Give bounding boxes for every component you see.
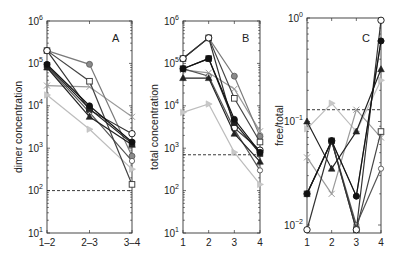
- y-tick-label: 102: [164, 183, 179, 196]
- triangle-filled-marker: [378, 66, 385, 72]
- y-tick-label: 105: [164, 56, 179, 69]
- circle-open-marker: [304, 227, 310, 233]
- y-axis-label: free/total: [273, 105, 285, 146]
- x-tick-label: 1: [180, 237, 186, 248]
- circle-open-marker: [378, 17, 384, 23]
- triangle-light-marker: [130, 166, 136, 172]
- circle-filled-marker: [206, 56, 212, 62]
- series-line: [183, 38, 260, 150]
- series-line: [183, 104, 260, 184]
- panel-c: 10−210−11001234free/totalC: [273, 11, 385, 249]
- y-tick-label: 101: [164, 226, 179, 239]
- triangle-light-marker: [258, 181, 264, 187]
- y-tick-label: 102: [28, 183, 43, 196]
- y-axis-label: dimer concentration: [12, 81, 24, 173]
- x-tick-label: 3–4: [124, 237, 141, 248]
- circle-open-small-marker: [257, 168, 262, 173]
- triangle-light-marker: [379, 77, 385, 83]
- square-open-marker: [378, 129, 384, 135]
- circle-filled-marker: [129, 139, 135, 145]
- y-tick-label: 104: [28, 98, 43, 111]
- y-tick-label: 106: [28, 14, 43, 27]
- circle-open-marker: [180, 55, 186, 61]
- x-tick-label: 2: [206, 237, 212, 248]
- y-tick-label: 10−2: [284, 218, 303, 231]
- series-line: [307, 132, 381, 230]
- circle-open-small-marker: [129, 158, 134, 163]
- square-open-marker: [87, 78, 93, 84]
- panel-b: 1011021031041051061234total concentratio…: [148, 14, 264, 249]
- circle-filled-marker: [231, 116, 237, 122]
- triangle-light-marker: [206, 101, 212, 107]
- circle-open-marker: [44, 47, 50, 53]
- x-gray-marker: [231, 86, 237, 92]
- panel-letter: A: [112, 32, 120, 44]
- circle-filled-marker: [353, 193, 359, 199]
- circle-filled-marker: [180, 66, 186, 72]
- circle-filled-marker: [87, 103, 93, 109]
- circle-open-marker: [205, 35, 211, 41]
- x-tick-label: 3: [232, 237, 238, 248]
- y-tick-label: 10−1: [284, 114, 303, 127]
- square-open-marker: [257, 139, 263, 145]
- circle-filled-marker: [304, 191, 310, 197]
- y-tick-label: 106: [164, 14, 179, 27]
- circle-gray-marker: [231, 73, 237, 79]
- figure: 1011021031041051061–22–33–4dimer concent…: [0, 0, 397, 256]
- circle-open-small-marker: [378, 166, 383, 171]
- circle-filled-marker: [329, 138, 335, 144]
- panel-letter: B: [242, 32, 249, 44]
- square-open-marker: [129, 182, 135, 188]
- circle-filled-marker: [257, 149, 263, 155]
- y-tick-label: 103: [28, 141, 43, 154]
- circle-open-marker: [129, 130, 135, 136]
- x-tick-label: 4: [378, 237, 384, 248]
- x-tick-label: 1: [304, 237, 310, 248]
- x-tick-label: 4: [257, 237, 263, 248]
- circle-filled-marker: [378, 38, 384, 44]
- panel-a: 1011021031041051061–22–33–4dimer concent…: [12, 14, 141, 249]
- x-tick-label: 3: [354, 237, 360, 248]
- circle-gray-marker: [87, 61, 93, 67]
- y-tick-label: 105: [28, 56, 43, 69]
- y-tick-label: 104: [164, 98, 179, 111]
- y-axis-label: total concentration: [148, 84, 160, 170]
- circle-filled-marker: [44, 61, 50, 67]
- y-tick-label: 103: [164, 141, 179, 154]
- x-tick-label: 2–3: [81, 237, 98, 248]
- square-open-marker: [232, 96, 238, 102]
- x-tick-label: 2: [329, 237, 335, 248]
- circle-open-marker: [353, 227, 359, 233]
- y-tick-label: 100: [288, 11, 303, 24]
- triangle-filled-marker: [304, 118, 311, 124]
- x-tick-label: 1–2: [39, 237, 56, 248]
- panel-letter: C: [362, 32, 370, 44]
- series-line: [307, 80, 381, 131]
